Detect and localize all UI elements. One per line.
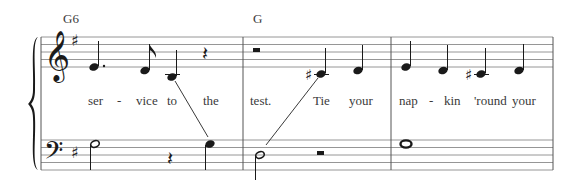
- lyric-syllable: your: [512, 93, 537, 108]
- sharp-icon: ♯: [71, 31, 79, 50]
- chord-symbol-g6: G6: [63, 11, 79, 26]
- quarter-rest-icon: 𝄽: [202, 41, 208, 65]
- treble-clef-icon: 𝄞: [44, 29, 70, 83]
- lyric-syllable: -: [117, 93, 121, 108]
- lyric-syllable: 'round: [474, 93, 507, 108]
- lyric-syllable: test.: [250, 93, 271, 108]
- sharp-icon: ♯: [71, 143, 79, 162]
- augmentation-dot: [103, 65, 105, 67]
- lyric-syllable: ser: [88, 93, 104, 108]
- half-rest-icon: [317, 151, 324, 155]
- measure-3-bass: [401, 140, 412, 147]
- whole-note-head: [401, 140, 412, 147]
- voice-leading-line: [175, 81, 208, 137]
- measure-2-treble: ♯: [253, 45, 364, 84]
- measure-1-bass: 𝄽: [90, 139, 216, 170]
- lyric-syllable: nap: [399, 93, 418, 108]
- grand-staff-brace-icon: [28, 37, 38, 170]
- lyric-syllable: vice: [136, 93, 158, 108]
- voice-leading-line: [266, 78, 318, 145]
- measure-3-treble: ♯: [400, 41, 524, 84]
- lyric-syllable: the: [203, 93, 219, 108]
- lyrics: ser - vice to the test. Tie your nap - k…: [88, 93, 537, 108]
- bass-staff: [41, 140, 553, 170]
- lyric-syllable: to: [167, 93, 177, 108]
- lyric-syllable: Tie: [313, 93, 330, 108]
- bass-clef-icon: 𝄢: [44, 136, 63, 171]
- lyric-syllable: your: [349, 93, 374, 108]
- half-rest-icon: [253, 48, 260, 52]
- sheet-music-score: G6 G 𝄞 𝄢 ♯ ♯: [0, 0, 581, 187]
- quarter-rest-icon: 𝄽: [167, 146, 173, 170]
- chord-symbol-g: G: [253, 11, 262, 26]
- lyric-syllable: -: [429, 93, 433, 108]
- lyric-syllable: kin: [444, 93, 461, 108]
- measure-1-treble: 𝄽: [88, 41, 208, 82]
- eighth-flag-icon: [150, 44, 157, 58]
- sharp-icon: ♯: [465, 66, 472, 84]
- treble-staff: [41, 37, 553, 67]
- sharp-icon: ♯: [305, 66, 312, 84]
